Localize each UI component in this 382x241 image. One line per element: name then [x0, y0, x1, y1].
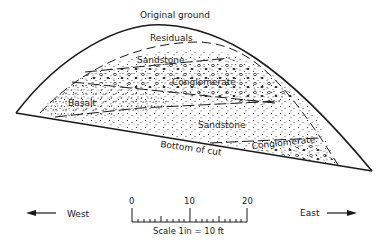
arrow-left-icon [26, 210, 36, 216]
east-arrow [327, 210, 357, 216]
sandstone-lower-label: Sandstone [198, 120, 246, 130]
residuals-label: Residuals [150, 33, 193, 43]
scale-tick-20: 20 [242, 196, 253, 206]
scale-bar [132, 208, 247, 222]
west-label: West [67, 209, 90, 219]
conglomerate-upper-label: Conglomerate [172, 77, 236, 87]
arrow-right-icon [347, 210, 357, 216]
original-ground-label: Original ground [140, 10, 210, 20]
sandstone-upper-label: Sandstone [137, 55, 185, 65]
scale-tick-0: 0 [129, 196, 134, 206]
scale-caption: Scale 1in = 10 ft [153, 226, 225, 236]
basalt-label: Basalt [68, 98, 96, 108]
west-arrow [26, 210, 56, 216]
east-label: East [300, 208, 320, 218]
cross-section-diagram: Original ground Residuals Sandstone Cong… [0, 0, 382, 241]
scale-tick-10: 10 [184, 196, 195, 206]
